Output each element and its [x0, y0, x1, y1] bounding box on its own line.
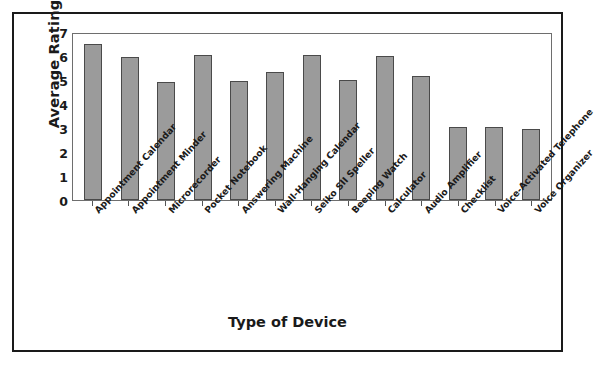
y-axis-tick-label: 0 [46, 194, 68, 209]
y-axis-tick-label: 5 [46, 74, 68, 89]
bar [84, 44, 102, 200]
x-axis-title: Type of Device [14, 314, 561, 330]
x-axis-label-slot: Voice-Activated Telephone [486, 206, 504, 318]
y-axis-tick-label: 3 [46, 122, 68, 137]
x-axis-category-labels: Appointment CalendarAppointment MinderMi… [72, 206, 552, 318]
x-axis-label-slot: Audio Amplifier [413, 206, 431, 318]
y-axis-tick-label: 6 [46, 50, 68, 65]
y-axis-tick-label: 7 [46, 26, 68, 41]
x-axis-label-slot: Calculator [376, 206, 394, 318]
x-axis-label-slot: Pocket Notebook [193, 206, 211, 318]
x-axis-label-slot: Seiko SII Speller [303, 206, 321, 318]
y-axis-tick-labels: 76543210 [40, 33, 68, 201]
x-axis-label-slot: Appointment Calendar [83, 206, 101, 318]
y-axis-tick-label: 1 [46, 170, 68, 185]
chart-figure: Average Rating 76543210 Appointment Cale… [12, 12, 563, 352]
x-axis-label-slot: Appointment Minder [120, 206, 138, 318]
x-axis-label-slot: Checklist [449, 206, 467, 318]
x-axis-label-slot: Microrecorder [157, 206, 175, 318]
x-axis-label-slot: Answering Machine [230, 206, 248, 318]
y-axis-tick-label: 2 [46, 146, 68, 161]
x-axis-label-slot: Beeping Watch [340, 206, 358, 318]
x-axis-label-slot: Voice Organizer [523, 206, 541, 318]
x-axis-label-slot: Wall-Hanging Calendar [266, 206, 284, 318]
y-axis-tick-label: 4 [46, 98, 68, 113]
